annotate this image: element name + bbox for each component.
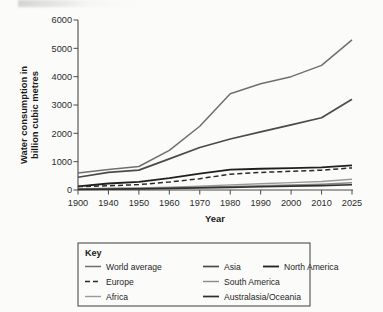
legend-label-north-america: North America <box>284 262 339 272</box>
x-tick-label: 2025 <box>342 198 362 208</box>
y-axis-title-line2: billion cubic metres <box>29 71 40 159</box>
legend-title: Key <box>85 248 102 258</box>
x-tick-label: 1990 <box>250 198 270 208</box>
y-tick-label: 6000 <box>52 15 72 25</box>
y-tick-label: 4000 <box>52 72 72 82</box>
y-tick-label: 1000 <box>52 157 72 167</box>
x-tick-label: 1970 <box>190 198 210 208</box>
x-tick-label: 1950 <box>129 198 149 208</box>
y-axis-tick-labels: 0100020003000400050006000 <box>52 15 72 195</box>
line-chart-figure: Water consumption in billion cubic metre… <box>0 0 383 312</box>
y-tick-label: 3000 <box>52 100 72 110</box>
chart-page: Water consumption in billion cubic metre… <box>0 0 383 312</box>
y-tick-label: 0 <box>67 185 72 195</box>
x-axis-tick-marks <box>78 190 352 195</box>
y-axis-title: Water consumption in billion cubic metre… <box>18 66 40 164</box>
x-tick-label: 1980 <box>220 198 240 208</box>
legend-label-australasia-oceania: Australasia/Oceania <box>224 292 301 302</box>
x-tick-label: 1900 <box>68 198 88 208</box>
x-tick-label: 1960 <box>159 198 179 208</box>
legend-label-world-average: World average <box>106 262 162 272</box>
legend-label-asia: Asia <box>224 262 241 272</box>
x-tick-label: 1940 <box>98 198 118 208</box>
x-axis-title: Year <box>205 213 225 224</box>
x-tick-label: 2010 <box>311 198 331 208</box>
series-lines-layer <box>78 40 352 190</box>
legend-label-africa: Africa <box>106 292 128 302</box>
x-tick-label: 2000 <box>281 198 301 208</box>
y-tick-label: 2000 <box>52 129 72 139</box>
y-tick-label: 5000 <box>52 44 72 54</box>
series-line-world-average <box>78 40 352 173</box>
y-axis-title-line1: Water consumption in <box>18 66 29 164</box>
y-axis-tick-marks <box>74 20 79 190</box>
legend-label-europe: Europe <box>106 277 134 287</box>
x-axis-tick-labels: 1900194019501960197019801990200020102025 <box>68 198 362 208</box>
legend-label-south-america: South America <box>224 277 280 287</box>
